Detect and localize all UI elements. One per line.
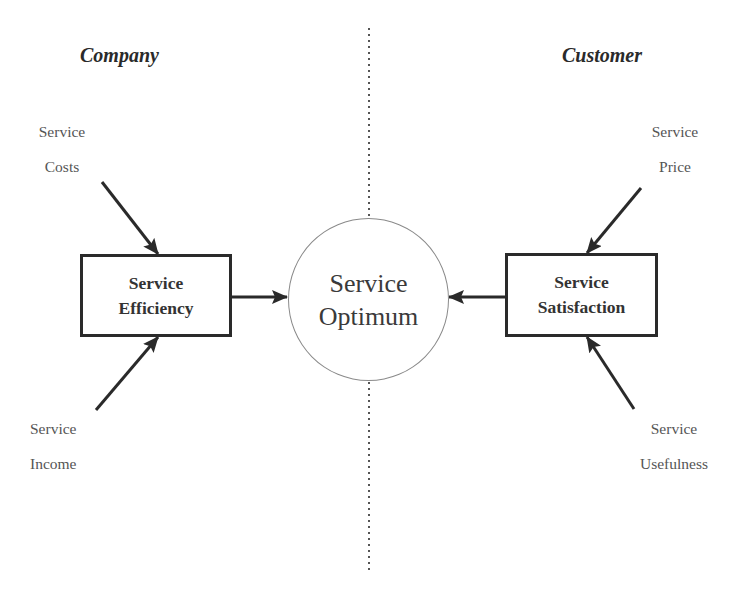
service-satisfaction-line1: Service — [554, 270, 608, 295]
arrow-costs-to-efficiency — [102, 182, 158, 254]
service-efficiency-box: Service Efficiency — [80, 254, 232, 337]
service-usefulness-line1: Service — [628, 411, 720, 446]
arrow-income-to-efficiency — [96, 337, 158, 410]
service-optimum-circle: Service Optimum — [288, 218, 449, 381]
service-price-line1: Service — [640, 114, 710, 149]
service-usefulness-line2: Usefulness — [628, 446, 720, 481]
service-costs-label: Service Costs — [30, 114, 94, 184]
arrow-usefulness-to-satisfaction — [587, 337, 634, 409]
service-satisfaction-box: Service Satisfaction — [505, 253, 658, 337]
service-efficiency-line2: Efficiency — [119, 296, 194, 321]
service-usefulness-label: Service Usefulness — [628, 411, 720, 481]
arrow-price-to-satisfaction — [587, 188, 641, 253]
service-optimum-line2: Optimum — [319, 300, 419, 333]
service-price-line2: Price — [640, 149, 710, 184]
service-costs-line1: Service — [30, 114, 94, 149]
service-efficiency-line1: Service — [129, 271, 183, 296]
service-income-line1: Service — [30, 411, 94, 446]
service-optimum-line1: Service — [330, 267, 408, 300]
service-costs-line2: Costs — [30, 149, 94, 184]
customer-heading: Customer — [562, 44, 642, 67]
service-income-line2: Income — [30, 446, 94, 481]
company-heading: Company — [80, 44, 159, 67]
service-satisfaction-line2: Satisfaction — [538, 295, 626, 320]
service-income-label: Service Income — [30, 411, 94, 481]
service-price-label: Service Price — [640, 114, 710, 184]
